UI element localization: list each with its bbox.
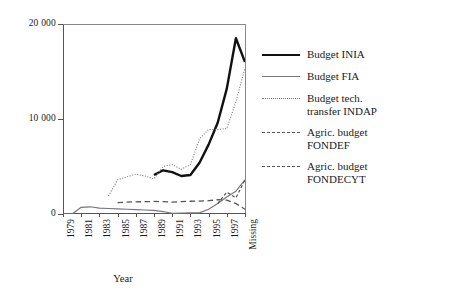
legend-item-fondef[interactable]: Agric. budget FONDEF <box>262 126 450 151</box>
series-line-budget-fia <box>63 180 245 214</box>
x-axis-tick-label: 1987 <box>140 219 150 238</box>
y-axis-label-20000: 20 000 <box>0 19 56 29</box>
legend-label-line2: FONDEF <box>307 139 450 152</box>
series-line-agric-budget-fondecyt <box>118 200 245 210</box>
y-axis-label-10000: 10 000 <box>0 114 56 124</box>
x-axis-tick-label: 1981 <box>85 219 95 238</box>
y-axis-label-0: 0 <box>0 209 56 219</box>
x-axis-tick-label: 1989 <box>158 219 168 238</box>
legend-label-line1: Agric. budget <box>307 160 367 172</box>
x-axis-tick-label: 1991 <box>176 219 186 238</box>
x-axis-tick-label: 1979 <box>67 219 77 238</box>
x-axis-tick-label: 1983 <box>103 219 113 238</box>
legend-item-budget-inia[interactable]: Budget INIA <box>262 48 450 61</box>
legend-label-line2: transfer INDAP <box>307 105 450 118</box>
x-axis-title: Year <box>0 273 246 284</box>
legend-label-fondecyt: Agric. budget FONDECYT <box>307 160 450 185</box>
legend-label-budget-indap: Budget tech. transfer INDAP <box>307 92 450 117</box>
legend-swatch-budget-indap <box>262 93 300 105</box>
legend-swatch-budget-fia <box>262 71 300 83</box>
legend-label-line2: FONDECYT <box>307 173 450 186</box>
legend-label-line1: Budget FIA <box>307 70 359 82</box>
legend-swatch-fondef <box>262 127 300 139</box>
chart-legend: Budget INIA Budget FIA Budget tech. tran… <box>262 48 450 194</box>
x-axis-tick-label: 1993 <box>194 219 204 238</box>
legend-item-budget-indap[interactable]: Budget tech. transfer INDAP <box>262 92 450 117</box>
series-line-budget-inia <box>154 38 245 176</box>
legend-swatch-fondecyt <box>262 161 300 173</box>
legend-item-budget-fia[interactable]: Budget FIA <box>262 70 450 83</box>
legend-label-budget-inia: Budget INIA <box>307 48 450 61</box>
series-plot <box>63 24 245 214</box>
legend-label-line1: Budget tech. <box>307 92 363 104</box>
x-axis-tick-label: Missing <box>249 219 259 250</box>
legend-swatch-budget-inia <box>262 49 300 61</box>
line-chart-figure: 20 000 10 000 0 197919811983198519871989… <box>0 0 452 300</box>
legend-label-budget-fia: Budget FIA <box>307 70 450 83</box>
legend-item-fondecyt[interactable]: Agric. budget FONDECYT <box>262 160 450 185</box>
series-line-budget-tech-transfer-indap <box>109 68 246 196</box>
legend-label-line1: Agric. budget <box>307 126 367 138</box>
x-axis-tick-label: 1995 <box>213 219 223 238</box>
x-axis-tick-label: 1985 <box>122 219 132 238</box>
x-axis-tick <box>245 213 246 217</box>
legend-label-fondef: Agric. budget FONDEF <box>307 126 450 151</box>
plot-right-border <box>245 24 246 214</box>
x-axis-tick-label: 1997 <box>231 219 241 238</box>
legend-label-line1: Budget INIA <box>307 48 365 60</box>
